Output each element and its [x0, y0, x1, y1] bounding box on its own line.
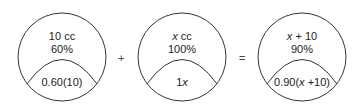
container-3-concentration: 90%	[262, 43, 342, 56]
plus-ten-close: +10)	[305, 76, 330, 88]
equals-operator: =	[239, 52, 245, 64]
container-1-concentration: 60%	[22, 43, 102, 56]
plus-operator: +	[118, 52, 124, 64]
coef-open: 0.90(	[274, 76, 299, 88]
plus-ten: + 10	[292, 30, 317, 42]
container-1-label: 10 cc 60%	[22, 30, 102, 56]
container-2-concentration: 100%	[142, 43, 222, 56]
container-3-label: x + 10 90%	[262, 30, 342, 56]
container-1-amount: 0.60(10)	[22, 76, 102, 89]
container-2-label: x cc 100%	[142, 30, 222, 56]
container-2-amount: 1x	[142, 76, 222, 89]
container-2-volume: x cc	[142, 30, 222, 43]
container-3-amount: 0.90(x +10)	[262, 76, 342, 89]
container-1-volume: 10 cc	[22, 30, 102, 43]
unit-cc: cc	[178, 30, 192, 42]
var-x: x	[182, 76, 188, 88]
mixture-diagram	[0, 0, 363, 112]
container-3-volume: x + 10	[262, 30, 342, 43]
